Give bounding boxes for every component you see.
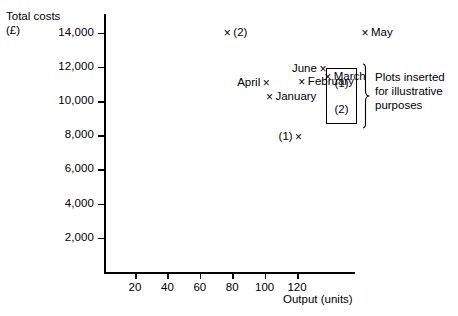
x-tick-label: 120 bbox=[277, 281, 317, 293]
inset-item-1: (1) bbox=[327, 77, 356, 89]
data-point-marker: × bbox=[263, 77, 270, 89]
y-tick-label: 8,000 bbox=[32, 128, 94, 140]
y-tick bbox=[98, 101, 105, 103]
y-tick bbox=[98, 135, 105, 137]
x-axis-line bbox=[104, 272, 355, 274]
illustrative-note: Plots inserted for illustrative purposes bbox=[375, 70, 445, 112]
inset-item-2: (2) bbox=[327, 103, 356, 115]
y-tick-label: 4,000 bbox=[32, 197, 94, 209]
data-point-marker: × bbox=[362, 27, 369, 39]
x-tick bbox=[135, 273, 137, 279]
data-point-label: January bbox=[275, 91, 316, 103]
data-point-marker: × bbox=[298, 76, 305, 88]
y-tick bbox=[98, 169, 105, 171]
y-tick-label: 10,000 bbox=[32, 94, 94, 106]
data-point-label: (2) bbox=[233, 28, 247, 40]
y-tick-label: 2,000 bbox=[32, 231, 94, 243]
x-tick bbox=[297, 273, 299, 279]
y-tick-label: 6,000 bbox=[32, 162, 94, 174]
data-point-label: May bbox=[371, 28, 393, 40]
data-point-label: April bbox=[237, 77, 260, 89]
curly-brace-icon bbox=[362, 63, 371, 129]
x-tick bbox=[200, 273, 202, 279]
y-axis-line bbox=[104, 14, 106, 273]
y-tick bbox=[98, 238, 105, 240]
y-tick-label: 14,000 bbox=[32, 26, 94, 38]
x-axis-title: Output (units) bbox=[283, 293, 353, 305]
data-point-marker: × bbox=[224, 27, 231, 39]
x-tick bbox=[265, 273, 267, 279]
data-point-marker: × bbox=[266, 91, 273, 103]
data-point-marker: × bbox=[295, 131, 302, 143]
chart-canvas: Total costs (£) Output (units) 2,0004,00… bbox=[0, 0, 458, 316]
inset-legend-box: (1) (2) bbox=[326, 68, 357, 124]
y-tick bbox=[98, 204, 105, 206]
x-tick bbox=[232, 273, 234, 279]
data-point-label: June bbox=[292, 64, 317, 76]
x-tick bbox=[167, 273, 169, 279]
y-tick-label: 12,000 bbox=[32, 60, 94, 72]
y-tick bbox=[98, 33, 105, 35]
y-tick bbox=[98, 67, 105, 69]
data-point-label: (1) bbox=[279, 131, 293, 143]
